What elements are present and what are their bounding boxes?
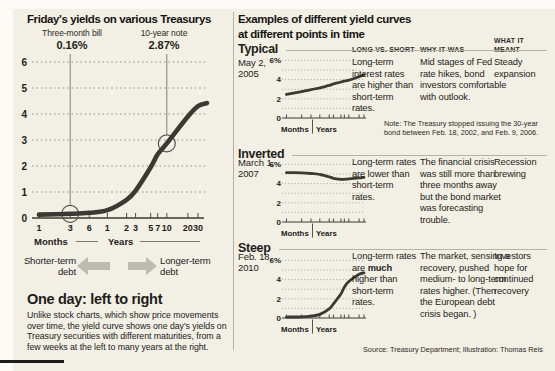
svg-text:2: 2 — [277, 295, 282, 304]
left-panel-title: Friday's yields on various Treasurys — [27, 13, 211, 25]
svg-text:4: 4 — [21, 109, 27, 120]
svg-text:2: 2 — [277, 199, 282, 208]
svg-text:0: 0 — [277, 114, 282, 123]
svg-text:30: 30 — [193, 223, 203, 233]
explainer-body: Unlike stock charts, which show price mo… — [27, 310, 227, 353]
svg-text:4: 4 — [277, 179, 282, 188]
svg-text:5: 5 — [21, 83, 27, 94]
svg-text:2: 2 — [277, 95, 282, 104]
svg-text:6%: 6% — [269, 256, 281, 265]
heading-rule — [279, 249, 547, 250]
longer-term-debt-label: Longer-term debt — [160, 256, 222, 278]
text-segment: higher than short-term rates. — [352, 274, 397, 307]
ten-year-label: 10-year note — [141, 28, 188, 38]
heading-rule — [292, 155, 547, 156]
svg-text:10: 10 — [162, 223, 172, 233]
right-title-line2: at different points in time — [238, 27, 411, 42]
svg-text:Months: Months — [34, 236, 68, 247]
svg-text:6: 6 — [21, 57, 27, 68]
text-segment: Long-term interest rates are higher than… — [352, 57, 413, 113]
svg-text:Years: Years — [316, 229, 337, 238]
heading-rule — [286, 50, 547, 51]
svg-text:2: 2 — [21, 161, 27, 172]
svg-text:Years: Years — [316, 325, 337, 334]
three-month-label: Three-month bill — [42, 28, 102, 38]
ten-year-value: 2.87% — [141, 39, 188, 51]
main-yield-curve-chart: 654321013612357102030MonthsYears — [14, 52, 229, 252]
svg-text:0: 0 — [21, 213, 27, 224]
three-month-value: 0.16% — [42, 39, 102, 51]
svg-text:Years: Years — [316, 125, 337, 134]
steep-what-it-meant: Investors hope for continued recovery — [494, 251, 550, 297]
three-month-callout: Three-month bill 0.16% — [42, 28, 102, 51]
svg-text:0: 0 — [277, 314, 282, 323]
svg-text:Months: Months — [281, 125, 309, 134]
page-edge-rule — [0, 360, 64, 363]
source-credit: Source: Treasury Department; Illustratio… — [363, 345, 543, 354]
svg-text:6: 6 — [87, 223, 92, 233]
svg-text:1: 1 — [105, 223, 110, 233]
right-arrow-icon — [128, 257, 157, 275]
text-segment: Long-term rates are lower than short-ter… — [352, 157, 416, 202]
svg-text:4: 4 — [277, 75, 282, 84]
treasury-yield-infographic: { "left": { "title": "Friday's yields on… — [0, 0, 555, 371]
svg-text:1: 1 — [36, 223, 41, 233]
ten-year-callout: 10-year note 2.87% — [141, 28, 188, 51]
typical-long-vs-short: Long-term interest rates are higher than… — [352, 57, 418, 115]
section-divider — [233, 12, 234, 350]
right-title-line1: Examples of different yield curves — [238, 12, 411, 27]
svg-text:Months: Months — [281, 325, 309, 334]
svg-text:1: 1 — [21, 187, 27, 198]
svg-text:6%: 6% — [269, 160, 281, 169]
treasury-note: Note: The Treasury stopped issuing the 3… — [384, 119, 547, 138]
svg-text:Months: Months — [281, 229, 309, 238]
right-panel-title: Examples of different yield curves at di… — [238, 12, 411, 42]
left-arrow-icon — [77, 257, 110, 275]
svg-text:3: 3 — [21, 135, 27, 146]
svg-text:3: 3 — [133, 223, 138, 233]
svg-text:0: 0 — [277, 218, 282, 227]
explainer-title: One day: left to right — [27, 291, 162, 307]
svg-text:3: 3 — [68, 223, 73, 233]
svg-text:7: 7 — [155, 223, 160, 233]
steep-long-vs-short: Long-term rates are much higher than sho… — [352, 251, 418, 309]
text-segment-bold: much — [368, 263, 392, 273]
svg-text:6%: 6% — [269, 56, 281, 65]
inverted-long-vs-short: Long-term rates are lower than short-ter… — [352, 157, 418, 203]
typical-what-it-meant: Steady expansion — [494, 57, 550, 80]
svg-text:20: 20 — [183, 223, 193, 233]
svg-text:5: 5 — [148, 223, 153, 233]
inverted-what-it-meant: Recession brewing — [494, 157, 550, 180]
svg-text:2: 2 — [124, 223, 129, 233]
svg-text:Years: Years — [108, 236, 133, 247]
svg-text:4: 4 — [277, 275, 282, 284]
